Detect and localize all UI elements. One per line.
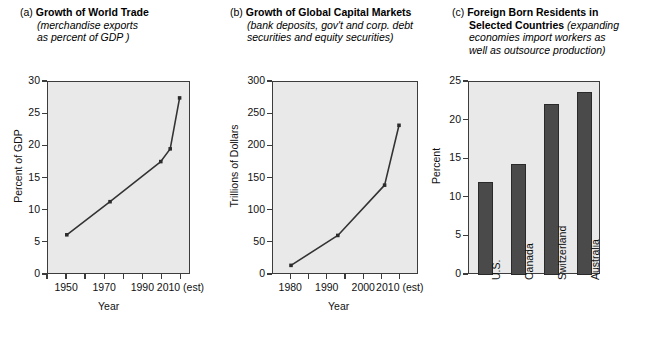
panel-foreign-born-residents: (c) Foreign Born Residents in Selected C… (430, 0, 654, 347)
x-tick-mark (65, 274, 66, 279)
panel-b-line-series (273, 82, 417, 273)
y-tick-mark (42, 113, 47, 114)
panel-a-letter: (a) (20, 6, 33, 18)
x-tick-label: 2010 (est) (365, 281, 435, 293)
x-tick-mark (180, 274, 181, 279)
panel-c-subtitle-line4: well as outsource production) (452, 44, 652, 57)
panel-b-plot-area (272, 81, 418, 274)
x-tick-mark (399, 274, 400, 279)
y-tick-mark (463, 80, 468, 81)
y-tick-mark (42, 209, 47, 210)
panel-a-title: Growth of World Trade (36, 6, 149, 18)
y-tick-mark (267, 177, 272, 178)
panel-a-subtitle-line2: as percent of GDP ) (20, 31, 215, 44)
y-tick-mark (267, 209, 272, 210)
y-tick-mark (42, 80, 47, 81)
y-tick-mark (463, 119, 468, 120)
y-tick-label: 5 (0, 235, 40, 247)
y-tick-label: 0 (420, 267, 461, 279)
panel-c-subtitle-line2a: (expanding (567, 19, 619, 31)
panel-a-subtitle-line1: (merchandise exports (20, 19, 215, 32)
data-point-marker (159, 160, 163, 164)
y-tick-label: 0 (0, 267, 40, 279)
panel-c-title-line2: Selected Countries (469, 19, 564, 31)
panel-c-caption: (c) Foreign Born Residents in Selected C… (452, 6, 652, 56)
panel-c-subtitle-line3: economies import workers as (452, 31, 652, 44)
panel-growth-of-world-trade: (a) Growth of World Trade (merchandise e… (0, 0, 215, 347)
category-label-australia: Australia (589, 239, 601, 280)
x-tick-label: 2010 (est) (145, 281, 215, 293)
data-point-marker (65, 233, 69, 237)
data-point-marker (289, 264, 293, 268)
x-tick-mark (104, 274, 105, 279)
panel-b-subtitle-line2: securities and equity securities) (230, 31, 430, 44)
x-tick-mark (381, 274, 382, 279)
data-point-marker (397, 124, 401, 128)
y-tick-label: 250 (224, 106, 265, 118)
panel-b-x-axis-label: Year (328, 300, 349, 312)
panel-b-title: Growth of Global Capital Markets (246, 6, 412, 18)
panel-a-plot-area (47, 81, 190, 274)
y-tick-label: 0 (224, 267, 265, 279)
y-tick-label: 25 (420, 74, 461, 86)
x-tick-mark (46, 274, 47, 279)
y-tick-label: 20 (420, 113, 461, 125)
data-point-marker (383, 183, 387, 187)
y-tick-label: 10 (420, 190, 461, 202)
y-tick-label: 300 (224, 74, 265, 86)
y-tick-mark (463, 196, 468, 197)
panel-b-y-axis-label: Trillions of Dollars (228, 124, 240, 207)
data-point-marker (336, 234, 340, 238)
data-point-marker (168, 147, 172, 151)
y-tick-mark (463, 235, 468, 236)
category-label-canada: Canada (523, 243, 535, 280)
y-tick-label: 15 (420, 151, 461, 163)
y-tick-mark (267, 80, 272, 81)
x-tick-mark (142, 274, 143, 279)
panel-c-title-line1: Foreign Born Residents in (467, 6, 598, 18)
y-tick-label: 100 (224, 203, 265, 215)
y-tick-label: 10 (0, 203, 40, 215)
panel-a-caption: (a) Growth of World Trade (merchandise e… (20, 6, 215, 44)
panel-growth-of-global-capital-markets: (b) Growth of Global Capital Markets (ba… (215, 0, 430, 347)
y-tick-label: 50 (224, 235, 265, 247)
y-tick-mark (267, 113, 272, 114)
y-tick-label: 200 (224, 138, 265, 150)
x-tick-mark (123, 274, 124, 279)
y-tick-label: 20 (0, 138, 40, 150)
y-tick-mark (42, 177, 47, 178)
panel-b-caption: (b) Growth of Global Capital Markets (ba… (230, 6, 430, 44)
y-tick-label: 30 (0, 74, 40, 86)
x-tick-mark (290, 274, 291, 279)
x-tick-mark (84, 274, 85, 279)
panel-c-letter: (c) (452, 6, 464, 18)
panel-b-letter: (b) (230, 6, 243, 18)
x-tick-mark (344, 274, 345, 279)
y-tick-label: 150 (224, 171, 265, 183)
y-tick-mark (42, 145, 47, 146)
y-tick-mark (267, 241, 272, 242)
y-tick-mark (463, 273, 468, 274)
data-point-marker (108, 200, 112, 204)
panel-a-line-series (48, 82, 189, 273)
x-tick-mark (161, 274, 162, 279)
x-tick-mark (326, 274, 327, 279)
panel-b-subtitle-line1: (bank deposits, gov't and corp. debt (230, 19, 430, 32)
y-tick-label: 15 (0, 171, 40, 183)
x-tick-mark (308, 274, 309, 279)
data-point-marker (178, 96, 182, 100)
y-tick-mark (267, 145, 272, 146)
category-label-u-s: U.S. (490, 260, 502, 280)
panel-a-x-axis-label: Year (98, 300, 119, 312)
category-label-switzerland: Switzerland (556, 226, 568, 280)
y-tick-label: 25 (0, 106, 40, 118)
y-tick-mark (463, 158, 468, 159)
x-tick-mark (363, 274, 364, 279)
y-tick-mark (42, 241, 47, 242)
y-tick-mark (267, 273, 272, 274)
y-tick-label: 5 (420, 228, 461, 240)
